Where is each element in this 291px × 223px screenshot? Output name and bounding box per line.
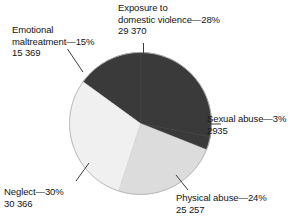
- pie-slice-exposure-domestic-violence[interactable]: [141, 52, 212, 136]
- slice-label-value: 2935: [207, 125, 286, 137]
- slice-label-value: 29 370: [118, 25, 220, 37]
- slice-label-physical-abuse: Physical abuse—24% 25 257: [176, 192, 267, 215]
- slice-label-line: Exposure to: [118, 2, 220, 14]
- slice-label-line: maltreatment—15%: [12, 36, 94, 48]
- slice-label-sexual-abuse: Sexual abuse—3% 2935: [207, 113, 286, 136]
- slice-label-neglect: Neglect—30% 30 366: [4, 186, 64, 209]
- slice-label-line: domestic violence—28%: [118, 14, 220, 26]
- slice-label-line: Physical abuse—24%: [176, 192, 267, 204]
- slice-label-exposure-domestic-violence: Exposure to domestic violence—28% 29 370: [118, 2, 220, 37]
- slice-label-line: Sexual abuse—3%: [207, 113, 286, 125]
- slice-label-value: 25 257: [176, 204, 267, 216]
- slice-label-value: 30 366: [4, 198, 64, 210]
- slice-label-emotional-maltreatment: Emotional maltreatment—15% 15 369: [12, 24, 94, 59]
- pie-chart-figure: Exposure to domestic violence—28% 29 370…: [0, 0, 291, 223]
- leader-line-neglect: [76, 163, 89, 181]
- slice-label-line: Neglect—30%: [4, 186, 64, 198]
- pie-slices: [69, 52, 211, 194]
- slice-label-value: 15 369: [12, 47, 94, 59]
- slice-label-line: Emotional: [12, 24, 94, 36]
